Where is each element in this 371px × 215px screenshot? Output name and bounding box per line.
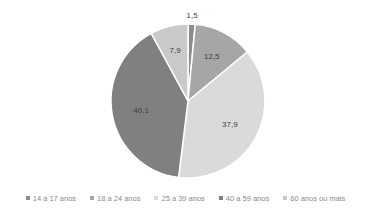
legend-label: 25 a 39 anos — [161, 194, 204, 203]
legend-label: 14 a 17 anos — [33, 194, 76, 203]
legend-label: 60 anos ou mais — [290, 194, 345, 203]
slice-value-label: 37,9 — [222, 120, 238, 129]
legend-item: 14 a 17 anos — [26, 191, 76, 205]
slice-value-label: 7,9 — [170, 46, 182, 55]
slice-value-label: 12,5 — [204, 52, 220, 61]
legend-swatch-icon — [26, 196, 30, 200]
slice-value-label: 1,5 — [187, 11, 199, 20]
legend-item: 25 a 39 anos — [154, 191, 204, 205]
pie-chart: 1,512,537,940,17,9 — [0, 0, 371, 215]
legend-swatch-icon — [90, 196, 94, 200]
pie-slices — [111, 24, 265, 178]
legend-swatch-icon — [283, 196, 287, 200]
legend-label: 18 a 24 anos — [97, 194, 140, 203]
legend-item: 60 anos ou mais — [283, 191, 345, 205]
legend-swatch-icon — [154, 196, 158, 200]
legend-label: 40 a 59 anos — [226, 194, 269, 203]
legend-item: 18 a 24 anos — [90, 191, 140, 205]
slice-value-label: 40,1 — [133, 106, 149, 115]
legend-swatch-icon — [219, 196, 223, 200]
chart-legend: 14 a 17 anos18 a 24 anos25 a 39 anos40 a… — [0, 191, 371, 205]
legend-item: 40 a 59 anos — [219, 191, 269, 205]
